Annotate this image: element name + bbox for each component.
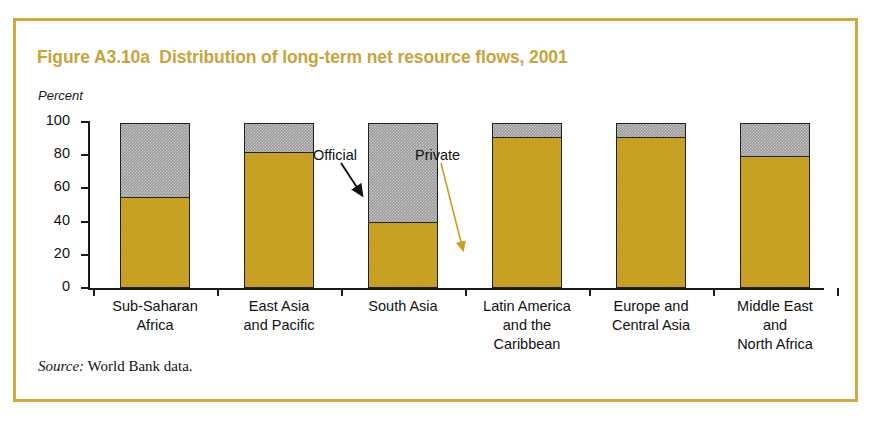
x-axis-tick: [589, 288, 591, 296]
x-axis-tick: [465, 288, 467, 296]
bar-stack[interactable]: [492, 122, 562, 288]
category-label-line: Caribbean: [452, 335, 602, 354]
x-axis-tick: [837, 288, 839, 296]
x-axis-tick: [341, 288, 343, 296]
y-axis-tick-label: 80: [54, 145, 70, 161]
page-title: Figure A3.10a Distribution of long-term …: [37, 47, 568, 68]
bar-segment-private[interactable]: [616, 137, 686, 288]
annotation-official-label: Official: [313, 147, 357, 163]
y-axis-unit-label: Percent: [38, 88, 83, 103]
bar-stack[interactable]: [740, 122, 810, 288]
bar-segment-official[interactable]: [740, 123, 810, 156]
bar-segment-official[interactable]: [120, 123, 190, 198]
category-label-line: Middle East: [700, 297, 850, 316]
x-axis-tick: [713, 288, 715, 296]
y-axis-tick-label: 60: [54, 178, 70, 194]
y-axis-tick: 20: [81, 254, 89, 256]
y-axis-tick-label: 0: [62, 278, 70, 294]
y-axis-tick-label: 100: [46, 112, 70, 128]
annotation-private-label: Private: [415, 147, 460, 163]
y-axis-line: [88, 121, 90, 289]
x-axis-tick: [217, 288, 219, 296]
bar-segment-private[interactable]: [244, 152, 314, 288]
x-axis-tick: [93, 288, 95, 296]
bar-segment-private[interactable]: [120, 197, 190, 288]
y-axis-tick-label: 20: [54, 245, 70, 261]
source-text: World Bank data.: [84, 358, 193, 374]
figure-page: Figure A3.10a Distribution of long-term …: [0, 0, 872, 423]
y-axis-tick: 80: [81, 154, 89, 156]
bar-segment-official[interactable]: [368, 123, 438, 223]
bar-stack[interactable]: [616, 122, 686, 288]
bar-segment-official[interactable]: [492, 123, 562, 138]
bar-segment-official[interactable]: [244, 123, 314, 153]
category-label-line: and: [700, 316, 850, 335]
category-label-line: North Africa: [700, 335, 850, 354]
x-axis-category-label: Middle EastandNorth Africa: [700, 297, 850, 354]
y-axis-tick-label: 40: [54, 212, 70, 228]
bar-segment-private[interactable]: [368, 222, 438, 288]
y-axis-tick: 40: [81, 221, 89, 223]
y-axis-tick: 100: [81, 121, 89, 123]
source-note: Source: World Bank data.: [38, 358, 193, 375]
y-axis-tick: 60: [81, 187, 89, 189]
bar-stack[interactable]: [120, 122, 190, 288]
category-label-line: and Pacific: [204, 316, 354, 335]
bar-segment-private[interactable]: [492, 137, 562, 288]
plot-area: 020406080100 Sub-SaharanAfricaEast Asiaa…: [88, 122, 860, 288]
source-prefix: Source:: [38, 358, 84, 374]
bar-segment-private[interactable]: [740, 155, 810, 288]
y-axis-tick: 0: [81, 287, 89, 289]
bar-stack[interactable]: [244, 122, 314, 288]
bar-segment-official[interactable]: [616, 123, 686, 138]
